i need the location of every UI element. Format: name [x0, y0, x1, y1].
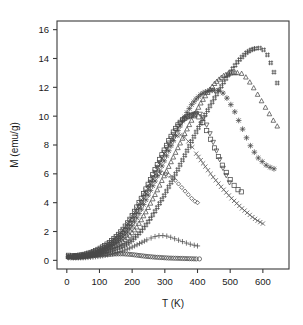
data-point	[153, 192, 158, 196]
data-point	[171, 155, 176, 159]
y-tick-label: 12	[38, 82, 49, 93]
data-point	[271, 118, 276, 122]
data-point	[263, 105, 268, 109]
data-point	[232, 109, 238, 115]
data-point	[178, 162, 183, 167]
data-point	[173, 178, 177, 182]
data-point	[155, 188, 160, 192]
data-point	[191, 134, 196, 139]
data-point	[164, 189, 169, 194]
data-point	[271, 166, 277, 172]
data-point	[211, 175, 215, 179]
data-point	[275, 81, 280, 86]
data-point	[267, 111, 272, 115]
data-point	[132, 243, 137, 248]
data-point	[192, 243, 197, 248]
data-point	[268, 60, 273, 65]
data-point	[166, 164, 171, 168]
data-point	[248, 143, 254, 149]
magnetization-vs-temperature-chart: 01002003004005006000246810121416T (K)M (…	[0, 0, 303, 325]
data-point	[261, 47, 266, 52]
data-point	[208, 104, 213, 109]
data-point	[176, 238, 181, 243]
data-point	[173, 150, 178, 154]
data-point	[130, 244, 135, 249]
data-point	[137, 241, 142, 246]
y-tick-label: 8	[44, 139, 49, 150]
data-point	[142, 238, 147, 243]
data-point	[183, 189, 187, 193]
series-triangle-up	[66, 70, 279, 258]
x-tick-label: 300	[157, 276, 173, 287]
y-axis-title: M (emu/g)	[9, 122, 20, 168]
data-point	[182, 153, 187, 158]
data-point	[176, 145, 181, 149]
data-point	[205, 108, 210, 113]
data-point	[169, 159, 174, 163]
data-point	[216, 181, 220, 185]
data-point	[185, 148, 190, 153]
data-point	[180, 239, 185, 244]
data-point	[162, 193, 167, 198]
data-point	[196, 125, 201, 130]
data-point	[255, 92, 260, 96]
data-point	[210, 100, 215, 105]
data-point	[130, 238, 135, 243]
data-point	[166, 184, 171, 189]
data-point	[168, 235, 173, 240]
data-point	[160, 233, 165, 238]
data-point	[148, 201, 153, 205]
data-point	[212, 96, 217, 101]
data-point	[214, 178, 218, 182]
x-tick-label: 500	[222, 276, 238, 287]
data-point	[188, 242, 193, 247]
data-point	[224, 95, 230, 101]
y-tick-label: 0	[44, 255, 49, 266]
data-point	[236, 118, 242, 124]
data-point	[176, 182, 180, 186]
data-point	[152, 234, 157, 239]
data-point	[208, 172, 212, 176]
data-point	[178, 141, 183, 145]
data-point	[242, 52, 247, 57]
data-point	[259, 99, 264, 103]
data-point	[216, 88, 222, 94]
data-point	[153, 209, 158, 214]
data-point	[127, 245, 132, 250]
data-point	[155, 205, 160, 210]
y-tick-label: 2	[44, 226, 49, 237]
data-point	[232, 183, 236, 187]
data-point	[195, 243, 200, 248]
data-point	[132, 236, 137, 241]
data-point	[196, 105, 201, 109]
data-point	[180, 158, 185, 163]
y-tick-label: 14	[38, 53, 49, 64]
y-tick-label: 10	[38, 111, 49, 122]
y-tick-label: 16	[38, 24, 49, 35]
figure-container: 01002003004005006000246810121416T (K)M (…	[0, 0, 303, 325]
plot-frame	[57, 21, 289, 269]
data-point	[134, 242, 139, 247]
data-point	[178, 133, 182, 137]
data-point	[194, 130, 199, 135]
data-point	[221, 80, 226, 85]
data-point	[252, 149, 258, 155]
data-point	[172, 236, 177, 241]
data-point	[173, 171, 178, 176]
data-point	[219, 84, 224, 89]
data-point	[186, 139, 190, 143]
x-tick-label: 0	[64, 276, 69, 287]
data-point	[228, 102, 234, 108]
data-point	[190, 196, 194, 200]
data-point	[186, 193, 190, 197]
data-point	[159, 197, 164, 202]
data-point	[275, 124, 280, 128]
caption-strip	[0, 317, 303, 325]
x-axis-title: T (K)	[162, 298, 184, 309]
data-point	[239, 71, 244, 75]
data-point	[146, 205, 151, 209]
data-point	[187, 122, 192, 126]
data-point	[148, 216, 153, 221]
data-point	[144, 210, 149, 214]
data-point	[220, 90, 226, 96]
